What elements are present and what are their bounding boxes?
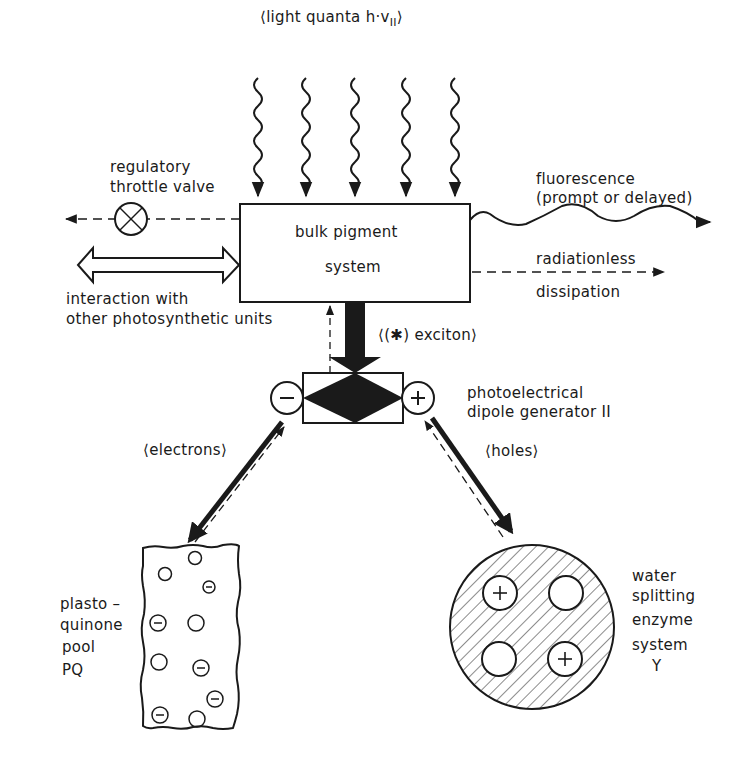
water-splitting-label-5: Y <box>652 657 661 675</box>
exciton-label: ⟨(✱) exciton⟩ <box>378 326 477 344</box>
radiationless-label-1: radiationless <box>536 250 636 268</box>
plastoquinone-label-2: quinone <box>60 616 123 634</box>
water-splitting-label-4: system <box>632 636 688 654</box>
fluorescence-label-1: fluorescence <box>536 170 635 188</box>
bulk-pigment-label-1: bulk pigment <box>295 223 398 241</box>
throttle-valve-label-1: regulatory <box>110 158 191 176</box>
plastoquinone-label-3: pool <box>62 638 95 656</box>
light-quanta-text: ⟨light quanta h·v <box>260 8 390 26</box>
interaction-label-1: interaction with <box>66 290 189 308</box>
dipole-generator-label-2: dipole generator II <box>467 403 611 421</box>
water-splitting-enzyme <box>448 543 618 713</box>
dipole-generator-label-1: photoelectrical <box>467 384 583 402</box>
holes-label: ⟨holes⟩ <box>485 442 539 460</box>
fluorescence-wave <box>470 204 710 225</box>
throttle-valve-label-2: throttle valve <box>110 178 215 196</box>
plastoquinone-label-4: PQ <box>62 661 83 679</box>
water-splitting-label-2: splitting <box>632 587 695 605</box>
throttle-valve-leak <box>66 203 240 235</box>
electrons-arrow <box>190 422 282 540</box>
fluorescence-label-2: (prompt or delayed) <box>536 189 693 207</box>
electrons-label: ⟨electrons⟩ <box>143 441 227 459</box>
water-splitting-label-3: enzyme <box>632 611 693 629</box>
light-quanta-label: ⟨light quanta h·vII⟩ <box>260 8 403 28</box>
holes-return-arrow <box>425 421 503 537</box>
dipole-generator <box>271 373 434 423</box>
light-quanta-arrows <box>254 78 459 196</box>
light-quanta-close: ⟩ <box>397 8 403 26</box>
plastoquinone-pool <box>141 544 241 729</box>
photosystem-ii-diagram <box>0 0 735 776</box>
radiationless-label-2: dissipation <box>536 283 620 301</box>
bulk-pigment-box <box>240 204 470 302</box>
bulk-pigment-label-2: system <box>325 258 381 276</box>
light-quanta-subscript: II <box>390 16 397 29</box>
interaction-label-2: other photosynthetic units <box>66 310 273 328</box>
valve-icon <box>115 203 147 235</box>
plastoquinone-label-1: plasto – <box>60 595 120 613</box>
water-splitting-label-1: water <box>632 567 676 585</box>
exciton-arrow <box>329 303 381 373</box>
interaction-double-arrow <box>78 248 239 282</box>
holes-arrow <box>432 418 511 531</box>
